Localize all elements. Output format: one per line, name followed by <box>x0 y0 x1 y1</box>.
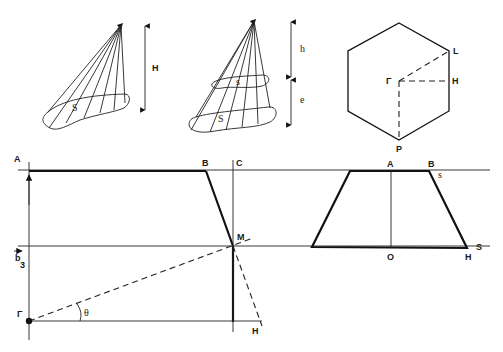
label-M: M <box>237 232 245 242</box>
segment-B-M <box>206 171 233 246</box>
dashed-line-gamma-M <box>29 238 253 321</box>
hex-center-label: Γ <box>386 76 392 86</box>
geometry-diagram: S H s S h e Γ L <box>0 0 503 352</box>
large-section-label: S <box>218 113 224 124</box>
height-label-h: h <box>300 43 305 54</box>
dashed-line-M-H <box>233 246 262 326</box>
cone-full-shape <box>43 23 130 129</box>
origin-point-icon <box>26 318 32 324</box>
label-B: B <box>202 158 209 168</box>
cone-truncated-panel: s S h e <box>189 19 305 132</box>
label-theta: θ <box>84 307 89 318</box>
label-A: A <box>14 154 21 164</box>
height-label-H: H <box>152 63 159 73</box>
hex-vertex-P-label: P <box>396 144 402 154</box>
hexagon-panel: Γ L H P <box>348 23 459 154</box>
trapezoid-panel: A B s O H S <box>312 159 482 262</box>
height-label-e: e <box>300 94 305 105</box>
hex-center-to-L <box>399 51 449 81</box>
trap-label-H: H <box>465 252 472 262</box>
trap-label-B: B <box>428 159 435 169</box>
hex-vertex-L-label: L <box>453 46 459 56</box>
label-C: C <box>236 158 243 168</box>
trap-label-A: A <box>387 159 394 169</box>
hex-edge-H-label: H <box>452 76 459 86</box>
cone-truncated-shape <box>189 19 276 132</box>
trap-label-s: s <box>438 169 442 180</box>
label-gamma: Γ <box>17 309 23 319</box>
angle-arc <box>77 304 81 321</box>
small-section-label: s <box>236 76 240 87</box>
label-b-subscript: 3 <box>20 260 25 270</box>
label-H: H <box>252 326 259 336</box>
trapezoid-shape <box>312 171 467 248</box>
trap-label-S: S <box>476 242 482 252</box>
cone-surface-label: S <box>72 102 78 113</box>
trap-label-O: O <box>387 252 394 262</box>
cone-full-panel: S H <box>43 23 159 129</box>
